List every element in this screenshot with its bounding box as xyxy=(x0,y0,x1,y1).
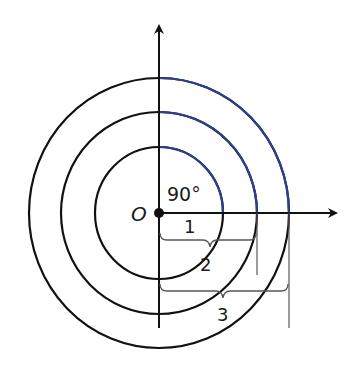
origin-point xyxy=(154,208,164,218)
radius-label-1: 1 xyxy=(184,216,195,237)
measure-lines xyxy=(257,213,289,328)
brace-radius-2 xyxy=(160,233,256,247)
angle-label: 90° xyxy=(167,183,201,205)
radius-label-3: 3 xyxy=(217,304,228,325)
radius-label-2: 2 xyxy=(200,254,211,275)
concentric-circles-diagram: O 90° 1 2 3 xyxy=(0,0,363,378)
origin-label: O xyxy=(131,202,147,226)
